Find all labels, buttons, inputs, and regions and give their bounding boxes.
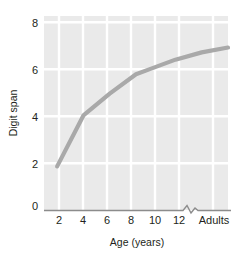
x-tick-label-12: 12: [173, 214, 185, 226]
x-tick-label-10: 10: [149, 214, 161, 226]
x-tick-label-2: 2: [56, 214, 62, 226]
y-tick-label-0: 0: [32, 200, 38, 212]
x-tick-label-6: 6: [104, 214, 110, 226]
y-tick-label-6: 6: [32, 64, 38, 76]
plot-background: [44, 16, 228, 210]
y-tick-labels: 8 6 4 2 0: [32, 17, 38, 213]
x-tick-label-8: 8: [128, 214, 134, 226]
y-axis-title: Digit span: [7, 90, 19, 137]
x-axis-title: Age (years): [110, 236, 164, 248]
x-tick-labels: 2 4 6 8 10 12 Adults: [56, 214, 230, 226]
x-tick-label-4: 4: [80, 214, 86, 226]
digit-span-line-chart: 8 6 4 2 0 2 4 6 8 10 12 Adults Age (year…: [0, 0, 240, 260]
y-tick-label-8: 8: [32, 17, 38, 29]
y-tick-label-2: 2: [32, 158, 38, 170]
y-tick-label-4: 4: [32, 111, 38, 123]
x-tick-label-adults: Adults: [199, 214, 230, 226]
figure-container: 8 6 4 2 0 2 4 6 8 10 12 Adults Age (year…: [0, 0, 240, 260]
